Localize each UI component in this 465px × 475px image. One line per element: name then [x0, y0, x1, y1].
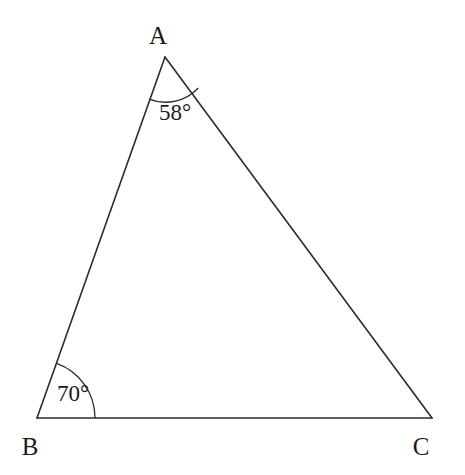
geometry-diagram: 58° 70° A B C — [0, 0, 465, 475]
angle-label-a: 58° — [159, 100, 191, 125]
vertex-label-c: C — [413, 433, 430, 460]
triangle-side-ac — [165, 57, 432, 418]
angle-label-b: 70° — [57, 381, 89, 406]
triangle-figure: 58° 70° A B C — [0, 0, 465, 475]
triangle-side-ab — [37, 57, 165, 418]
vertex-label-b: B — [22, 433, 39, 460]
vertex-label-a: A — [149, 22, 167, 49]
